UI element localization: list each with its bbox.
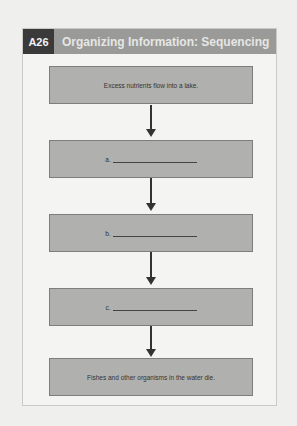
answer-blank-b[interactable] bbox=[113, 230, 197, 237]
flow-step-end: Fishes and other organisms in the water … bbox=[49, 358, 253, 396]
down-arrow-icon bbox=[150, 105, 152, 131]
panel-header: A26 Organizing Information: Sequencing bbox=[23, 29, 276, 54]
step-text: Fishes and other organisms in the water … bbox=[87, 374, 215, 381]
step-text: Excess nutrients flow into a lake. bbox=[104, 82, 198, 89]
panel-title: Organizing Information: Sequencing bbox=[62, 35, 269, 49]
step-label: b. bbox=[105, 230, 110, 237]
flow-step-c: c. bbox=[49, 288, 253, 326]
activity-badge: A26 bbox=[23, 29, 54, 54]
sequencing-panel: A26 Organizing Information: Sequencing E… bbox=[22, 28, 277, 406]
step-label: c. bbox=[105, 304, 110, 311]
down-arrow-icon bbox=[150, 178, 152, 205]
down-arrow-icon bbox=[150, 326, 152, 351]
flow-step-b: b. bbox=[49, 214, 253, 252]
answer-blank-c[interactable] bbox=[113, 304, 197, 311]
down-arrow-icon bbox=[150, 252, 152, 279]
step-label: a. bbox=[105, 156, 110, 163]
flow-step-start: Excess nutrients flow into a lake. bbox=[49, 66, 253, 104]
answer-blank-a[interactable] bbox=[113, 156, 197, 163]
flow-step-a: a. bbox=[49, 140, 253, 178]
